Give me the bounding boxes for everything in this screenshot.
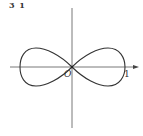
origin-point: [71, 66, 73, 68]
x-intercept-label: 1: [124, 69, 130, 79]
origin-label: O: [64, 69, 71, 79]
x-axis-arrow-icon: [133, 65, 139, 69]
lemniscate-diagram: [0, 0, 143, 136]
